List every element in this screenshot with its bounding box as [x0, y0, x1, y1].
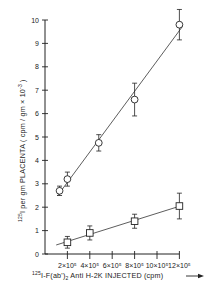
square-marker-icon: [176, 203, 183, 210]
y-tick-label: 9: [35, 40, 39, 47]
data-point-squares: [176, 193, 183, 219]
data-point-squares: [87, 226, 94, 240]
y-tick-label: 10: [31, 17, 39, 24]
circle-marker-icon: [56, 187, 63, 194]
square-marker-icon: [64, 239, 71, 246]
data-point-circles: [176, 9, 183, 39]
circle-marker-icon: [95, 139, 102, 146]
x-axis-label: 125I-F(ab')2 Anti H-2K INJECTED (cpm): [32, 270, 163, 281]
x-tick-label: 4×10⁵: [80, 262, 99, 269]
y-tick-label: 5: [35, 134, 39, 141]
data-points: [56, 9, 183, 248]
square-marker-icon: [87, 230, 94, 237]
y-tick-label: 1: [35, 227, 39, 234]
y-tick-label: 6: [35, 110, 39, 117]
x-tick-label: 8×10⁵: [125, 262, 144, 269]
axes: 0123456789102×10⁵4×10⁵6×10⁵8×10⁵10×10⁵12…: [31, 17, 191, 270]
x-tick-label: 2×10⁵: [58, 262, 77, 269]
data-point-circles: [56, 186, 63, 195]
circle-marker-icon: [131, 96, 138, 103]
circle-marker-icon: [176, 21, 183, 28]
y-tick-label: 0: [35, 251, 39, 258]
x-tick-label: 6×10⁵: [103, 262, 122, 269]
data-point-squares: [131, 214, 138, 228]
y-tick-label: 7: [35, 87, 39, 94]
circle-marker-icon: [64, 176, 71, 183]
x-tick-label: 10×10⁵: [146, 262, 169, 269]
data-point-circles: [64, 172, 71, 186]
y-tick-label: 2: [35, 204, 39, 211]
fit-line-circles: [57, 26, 182, 196]
fit-line-squares: [56, 206, 179, 245]
y-axis-label: 125I per gm PLACENTA ( cpm / gm × 10-3 ): [17, 79, 27, 222]
y-tick-label: 3: [35, 180, 39, 187]
square-marker-icon: [131, 218, 138, 225]
y-tick-label: 8: [35, 63, 39, 70]
x-tick-label: 12×10⁵: [168, 262, 191, 269]
chart: 0123456789102×10⁵4×10⁵6×10⁵8×10⁵10×10⁵12…: [0, 0, 213, 297]
y-tick-label: 4: [35, 157, 39, 164]
fit-lines: [56, 26, 183, 245]
x-axis-arrow-icon: [186, 274, 204, 278]
data-point-squares: [64, 236, 71, 248]
